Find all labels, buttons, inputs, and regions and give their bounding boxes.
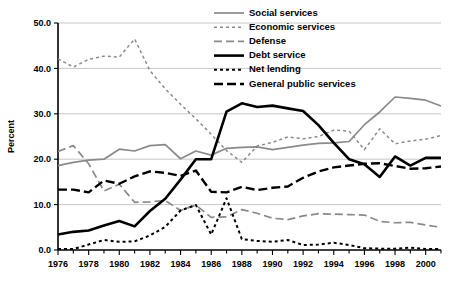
y-tick-label: 10.0	[33, 200, 51, 210]
x-tick-label: 1990	[262, 259, 282, 269]
line-chart: 50.040.030.020.010.00.019761978198019821…	[0, 0, 460, 283]
legend-label-general-public-services: General public services	[249, 78, 356, 89]
x-tick-label: 1998	[385, 259, 405, 269]
legend-label-debt-service: Debt service	[249, 49, 306, 60]
y-axis-title: Percent	[6, 120, 16, 153]
legend-label-social-services: Social services	[249, 7, 318, 18]
series-line-debt-service	[58, 103, 441, 234]
x-tick-label: 1988	[232, 259, 252, 269]
x-tick-label: 1982	[140, 259, 160, 269]
y-tick-label: 40.0	[33, 64, 51, 74]
series-line-net-lending	[58, 198, 441, 249]
series-line-general-public-services	[58, 163, 441, 192]
y-tick-label: 30.0	[33, 109, 51, 119]
chart-legend: Social servicesEconomic servicesDefenseD…	[214, 7, 356, 89]
x-tick-label: 1996	[354, 259, 374, 269]
chart-figure: 50.040.030.020.010.00.019761978198019821…	[0, 0, 460, 283]
x-tick-label: 1994	[324, 259, 344, 269]
x-tick-label: 1986	[201, 259, 221, 269]
series-line-defense	[58, 146, 441, 228]
x-tick-label: 1978	[79, 259, 99, 269]
legend-label-net-lending: Net lending	[249, 63, 301, 74]
y-tick-label: 0.0	[38, 245, 51, 255]
legend-label-defense: Defense	[249, 35, 286, 46]
legend-label-economic-services: Economic services	[249, 21, 335, 32]
x-tick-label: 1980	[109, 259, 129, 269]
y-tick-label: 50.0	[33, 18, 51, 28]
y-tick-label: 20.0	[33, 154, 51, 164]
x-tick-label: 2000	[416, 259, 436, 269]
x-tick-label: 1976	[48, 259, 68, 269]
x-tick-label: 1984	[171, 259, 191, 269]
x-tick-label: 1992	[293, 259, 313, 269]
